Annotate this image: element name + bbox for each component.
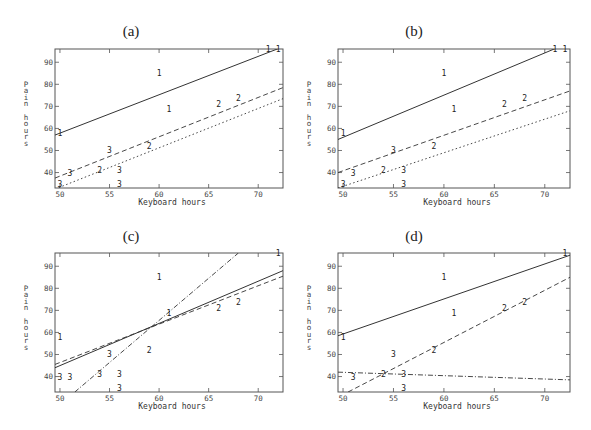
data-point-group-2: 2 — [431, 142, 436, 151]
data-point-group-3: 3 — [117, 166, 122, 175]
data-point-group-3: 3 — [341, 180, 346, 189]
svg-text:n: n — [307, 99, 312, 108]
x-axis-label: Keyboard hours — [423, 198, 491, 207]
y-axis-label: Painhours — [24, 284, 29, 352]
fit-line-group-3 — [338, 111, 570, 188]
data-point-group-2: 2 — [381, 370, 386, 379]
data-point-group-3: 3 — [58, 373, 63, 382]
data-point-group-1: 1 — [341, 333, 346, 342]
data-point-group-3: 3 — [351, 169, 356, 178]
fit-line-group-3 — [338, 372, 570, 380]
x-axis-label: Keyboard hours — [138, 402, 206, 411]
data-point-group-2: 2 — [147, 346, 152, 355]
y-axis-label: Painhours — [307, 80, 312, 148]
data-point-group-1: 1 — [58, 129, 63, 138]
x-tick-label: 70 — [540, 394, 550, 403]
y-tick-label: 40 — [44, 168, 54, 177]
data-point-group-2: 2 — [522, 94, 527, 103]
data-point-group-3: 3 — [117, 370, 122, 379]
data-point-group-3: 3 — [67, 373, 72, 382]
data-point-group-2: 2 — [236, 94, 241, 103]
y-tick-label: 60 — [327, 328, 337, 337]
y-tick-label: 70 — [44, 306, 54, 315]
svg-text:n: n — [24, 99, 29, 108]
data-point-group-3: 3 — [117, 384, 122, 393]
x-tick-label: 65 — [490, 394, 499, 403]
fit-line-group-2 — [338, 91, 570, 173]
plot-area: 5055606570405060708090Keyboard hoursPain… — [299, 215, 591, 430]
y-axis-label: Painhours — [307, 284, 312, 352]
y-tick-label: 50 — [327, 350, 337, 359]
x-tick-label: 50 — [339, 190, 349, 199]
svg-text:n: n — [307, 303, 312, 312]
x-tick-label: 65 — [490, 190, 499, 199]
data-point-group-2: 2 — [236, 298, 241, 307]
y-tick-label: 80 — [327, 80, 337, 89]
svg-text:s: s — [24, 139, 29, 148]
x-tick-label: 55 — [105, 190, 114, 199]
x-tick-label: 55 — [105, 394, 114, 403]
data-point-group-2: 2 — [216, 100, 221, 109]
data-point-group-1: 1 — [157, 69, 162, 78]
data-point-group-1: 1 — [452, 309, 457, 318]
axes-frame — [338, 253, 570, 392]
data-point-group-1: 1 — [58, 333, 63, 342]
data-point-group-1: 1 — [167, 309, 172, 318]
y-tick-label: 40 — [327, 372, 337, 381]
y-tick-label: 70 — [327, 306, 337, 315]
data-point-group-1: 1 — [157, 273, 162, 282]
axes-frame — [55, 49, 283, 188]
svg-text:s: s — [24, 343, 29, 352]
data-point-group-3: 3 — [391, 350, 396, 359]
x-tick-label: 50 — [339, 394, 349, 403]
data-point-group-1: 1 — [452, 105, 457, 114]
x-axis-label: Keyboard hours — [423, 402, 491, 411]
data-point-group-3: 3 — [107, 146, 112, 155]
y-tick-label: 90 — [327, 58, 337, 67]
data-point-group-2: 2 — [431, 346, 436, 355]
y-tick-label: 40 — [327, 168, 337, 177]
y-tick-label: 80 — [327, 284, 337, 293]
data-point-group-3: 3 — [401, 180, 406, 189]
fit-line-group-1 — [338, 42, 570, 139]
data-point-group-1: 1 — [563, 249, 568, 258]
y-tick-label: 90 — [327, 262, 337, 271]
panel-b: (b)5055606570405060708090Keyboard hoursP… — [299, 0, 591, 215]
axes-frame — [55, 253, 283, 392]
data-point-group-2: 2 — [502, 304, 507, 313]
data-point-group-1: 1 — [441, 69, 446, 78]
data-point-group-1: 1 — [441, 273, 446, 282]
fit-line-group-2 — [55, 276, 283, 364]
y-tick-label: 50 — [327, 146, 337, 155]
x-tick-label: 55 — [389, 394, 398, 403]
fit-line-group-1 — [55, 271, 283, 368]
panel-a: (a)5055606570405060708090Keyboard hoursP… — [0, 0, 292, 215]
data-point-group-3: 3 — [401, 166, 406, 175]
x-tick-label: 70 — [254, 394, 264, 403]
y-tick-label: 90 — [44, 262, 54, 271]
y-axis-label: Painhours — [24, 80, 29, 148]
y-tick-label: 90 — [44, 58, 54, 67]
data-point-group-3: 3 — [401, 370, 406, 379]
data-point-group-1: 1 — [266, 45, 271, 54]
data-point-group-3: 3 — [107, 350, 112, 359]
axes-frame — [338, 49, 570, 188]
y-tick-label: 70 — [44, 102, 54, 111]
y-tick-label: 80 — [44, 284, 54, 293]
plot-area: 5055606570405060708090Keyboard hoursPain… — [0, 0, 292, 215]
data-point-group-1: 1 — [276, 249, 281, 258]
data-point-group-2: 2 — [502, 100, 507, 109]
x-axis-label: Keyboard hours — [138, 198, 206, 207]
panel-d: (d)5055606570405060708090Keyboard hoursP… — [299, 215, 591, 430]
fit-line-group-1 — [55, 47, 283, 135]
data-point-group-2: 2 — [97, 166, 102, 175]
data-point-group-2: 2 — [216, 304, 221, 313]
y-tick-label: 50 — [44, 146, 54, 155]
data-point-group-3: 3 — [401, 384, 406, 393]
data-point-group-3: 3 — [351, 373, 356, 382]
data-point-group-1: 1 — [552, 45, 557, 54]
data-point-group-1: 1 — [276, 45, 281, 54]
y-tick-label: 60 — [44, 124, 54, 133]
data-point-group-2: 2 — [147, 142, 152, 151]
data-point-group-1: 1 — [563, 45, 568, 54]
